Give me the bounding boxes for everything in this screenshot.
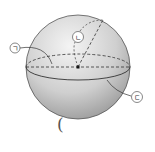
- label-b: ㄴ: [75, 34, 81, 42]
- label-c: ㄷ: [134, 94, 140, 102]
- sphere-diagram: ㄱ ㄴ ㄷ: [0, 0, 155, 152]
- label-a: ㄱ: [12, 45, 18, 53]
- answer-blank: (: [57, 114, 64, 134]
